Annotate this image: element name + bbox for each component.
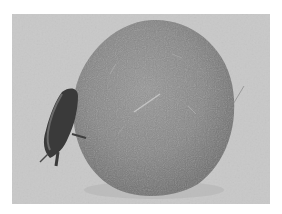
photo-scene (12, 14, 270, 204)
photo-frame (12, 14, 270, 204)
image-canvas (0, 0, 282, 214)
